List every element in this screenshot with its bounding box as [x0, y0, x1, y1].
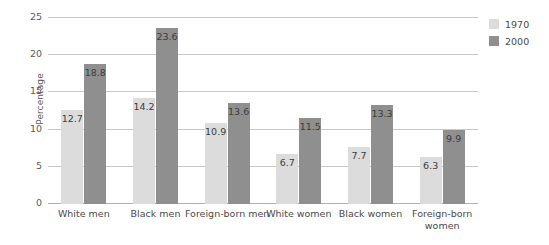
gridline-25: 25	[48, 17, 478, 18]
legend-item-1970[interactable]: 1970	[489, 17, 547, 31]
bar-1970-1[interactable]: 12.7	[61, 110, 83, 204]
bar-2000-3[interactable]: 13.6	[228, 103, 250, 204]
bar-2000-1[interactable]: 18.8	[84, 64, 106, 204]
bar-group: 7.713.3Black women	[348, 18, 393, 204]
plot-area: 051015202512.718.8White men14.223.6Black…	[48, 18, 478, 204]
y-tick-label-15: 15	[30, 85, 42, 96]
bar-1970-2[interactable]: 14.2	[133, 98, 155, 204]
bar-group: 10.913.6Foreign-born men	[205, 18, 250, 204]
gridline-20: 20	[48, 54, 478, 55]
gridline-5: 5	[48, 166, 478, 167]
y-tick-label-10: 10	[30, 123, 42, 134]
gridline-10: 10	[48, 129, 478, 130]
gridline-15: 15	[48, 91, 478, 92]
bar-1970-4[interactable]: 6.7	[276, 154, 298, 204]
bar-value-label: 6.3	[423, 160, 438, 171]
x-tick-label-6: Foreign-born women	[399, 208, 485, 232]
x-axis-line: 0	[48, 203, 478, 204]
legend-swatch-icon	[489, 36, 499, 46]
bar-2000-2[interactable]: 23.6	[156, 28, 178, 204]
bar-value-label: 11.5	[300, 121, 321, 132]
y-tick-label-25: 25	[30, 11, 42, 22]
bar-value-label: 12.7	[62, 113, 83, 124]
bar-value-label: 10.9	[205, 126, 226, 137]
bar-1970-5[interactable]: 7.7	[348, 147, 370, 204]
bar-group: 6.39.9Foreign-born women	[420, 18, 465, 204]
legend-label: 2000	[505, 36, 529, 47]
bar-value-label: 6.7	[280, 157, 295, 168]
y-tick-label-0: 0	[36, 197, 42, 208]
bar-2000-4[interactable]: 11.5	[299, 118, 321, 204]
bar-group: 12.718.8White men	[61, 18, 106, 204]
bar-value-label: 23.6	[156, 31, 177, 42]
bar-group: 6.711.5White women	[276, 18, 321, 204]
bar-value-label: 18.8	[85, 67, 106, 78]
bar-group: 14.223.6Black men	[133, 18, 178, 204]
chart-legend: 19702000	[489, 17, 547, 51]
bar-1970-6[interactable]: 6.3	[420, 157, 442, 204]
bar-value-label: 13.6	[228, 106, 249, 117]
y-tick-label-20: 20	[30, 48, 42, 59]
bar-value-label: 13.3	[371, 108, 392, 119]
bar-2000-5[interactable]: 13.3	[371, 105, 393, 204]
legend-item-2000[interactable]: 2000	[489, 34, 547, 48]
legend-label: 1970	[505, 19, 529, 30]
bar-value-label: 14.2	[133, 101, 154, 112]
legend-swatch-icon	[489, 19, 499, 29]
bar-value-label: 9.9	[446, 133, 461, 144]
bar-value-label: 7.7	[351, 150, 366, 161]
bar-1970-3[interactable]: 10.9	[205, 123, 227, 204]
bar-chart: Percentage 051015202512.718.8White men14…	[0, 0, 549, 245]
bar-2000-6[interactable]: 9.9	[443, 130, 465, 204]
y-tick-label-5: 5	[36, 160, 42, 171]
